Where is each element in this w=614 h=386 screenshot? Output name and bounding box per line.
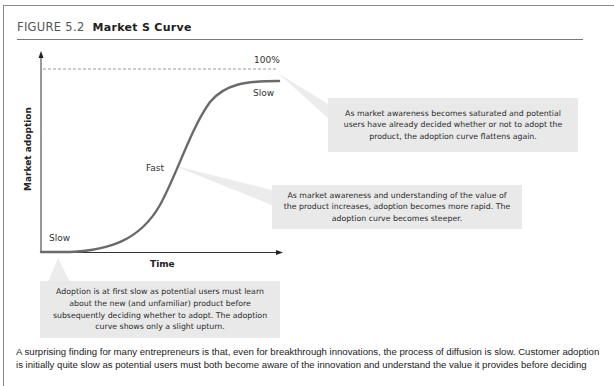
x-axis-arrow-icon (276, 250, 283, 255)
body-line-2: is initially quite slow as potential use… (16, 358, 606, 371)
callout-middle: As market awareness and understanding of… (272, 185, 522, 229)
phase-middle-label: Fast (146, 163, 164, 173)
body-line-1: A surprising finding for many entreprene… (16, 345, 606, 358)
callout-early: Adoption is at first slow as potential u… (40, 281, 280, 338)
phase-early-label: Slow (49, 233, 70, 243)
late-callout-pointer (278, 73, 328, 118)
early-callout-pointer (48, 258, 70, 282)
body-paragraph: A surprising finding for many entreprene… (16, 345, 606, 371)
top-percent-label: 100% (254, 55, 280, 65)
middle-callout-pointer (172, 165, 272, 205)
callout-early-text: Adoption is at first slow as potential u… (48, 286, 272, 332)
x-axis-label: Time (150, 259, 175, 269)
y-axis-label: Market adoption (23, 111, 33, 191)
callout-late-text: As market awareness becomes saturated an… (336, 108, 570, 143)
callout-middle-text: As market awareness and understanding of… (280, 190, 514, 225)
y-axis-arrow-icon (39, 51, 44, 58)
phase-late-label: Slow (253, 88, 274, 98)
callout-late: As market awareness becomes saturated an… (328, 98, 578, 152)
